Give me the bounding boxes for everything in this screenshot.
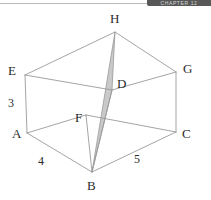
edge-hg	[115, 32, 176, 72]
vertex-label-a: A	[12, 127, 21, 140]
vertex-label-d: D	[117, 77, 126, 90]
figure-screenshot: CHAPTER 12 HEGDFACB 345	[0, 0, 211, 200]
shaded-triangle-hdb	[92, 32, 115, 172]
edge-ab	[27, 133, 92, 172]
edge-length-label-height: 3	[8, 97, 14, 109]
edge-length-label-length: 5	[134, 153, 140, 165]
cuboid-diagram	[0, 0, 211, 200]
vertex-label-c: C	[182, 127, 191, 140]
edge-fb	[86, 115, 92, 172]
edge-length-label-width: 4	[38, 155, 44, 167]
edge-ea	[25, 75, 27, 133]
edge-db	[92, 90, 112, 172]
cuboid-edges	[25, 32, 176, 172]
vertex-label-g: G	[183, 62, 192, 75]
vertex-label-e: E	[8, 64, 16, 77]
vertex-label-h: H	[110, 12, 119, 25]
vertex-label-b: B	[87, 179, 96, 192]
vertex-label-f: F	[75, 111, 82, 124]
edge-eh	[25, 32, 115, 75]
edge-de	[25, 75, 112, 90]
